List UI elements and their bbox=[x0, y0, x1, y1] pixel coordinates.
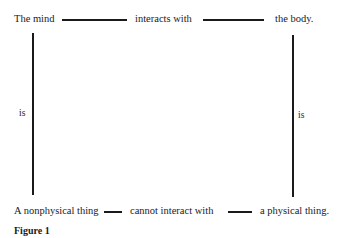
connector-right-vertical bbox=[292, 35, 294, 197]
connector-bottom-right bbox=[228, 211, 252, 213]
figure-caption: Figure 1 bbox=[14, 225, 50, 236]
relation-left-is: is bbox=[19, 107, 25, 119]
connector-bottom-left bbox=[104, 211, 122, 213]
connector-top-right bbox=[203, 19, 264, 21]
connector-left-vertical bbox=[32, 33, 34, 195]
connector-top-left bbox=[62, 19, 127, 21]
node-physical-thing: a physical thing. bbox=[260, 205, 329, 217]
relation-interacts-with: interacts with bbox=[135, 13, 192, 25]
node-the-mind: The mind bbox=[14, 13, 55, 25]
relation-right-is: is bbox=[298, 109, 304, 121]
node-nonphysical-thing: A nonphysical thing bbox=[14, 205, 99, 217]
node-the-body: the body. bbox=[275, 13, 313, 25]
relation-cannot-interact-with: cannot interact with bbox=[130, 205, 213, 217]
